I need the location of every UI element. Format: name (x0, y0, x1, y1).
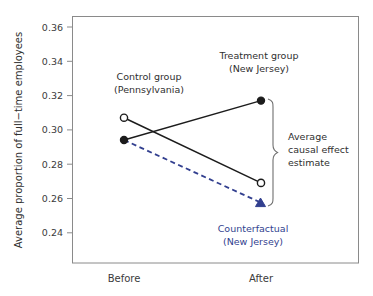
x-tick-label-before: Before (108, 273, 141, 284)
chart-figure: 0.36 0.34 0.32 0.30 0.28 0.26 0.24 Avera… (0, 0, 373, 296)
y-tick-label-030: 0.30 (42, 124, 63, 135)
x-tick-label-after: After (249, 273, 274, 284)
y-tick-label-036: 0.36 (42, 22, 63, 33)
annotation-effect-line1: Average (288, 131, 327, 142)
marker-counterfactual-after (256, 198, 266, 207)
annotation-counterfactual-line1: Counterfactual (218, 223, 289, 234)
annotation-treatment-line1: Treatment group (219, 50, 299, 61)
y-tick-label-026: 0.26 (42, 193, 63, 204)
y-tick-label-034: 0.34 (42, 56, 63, 67)
annotation-control-line1: Control group (117, 71, 182, 82)
series-line-treatment (124, 101, 261, 140)
y-tick-label-024: 0.24 (42, 227, 63, 238)
y-tick-label-028: 0.28 (42, 159, 63, 170)
annotation-effect-line3: estimate (288, 157, 330, 168)
effect-brace-icon (268, 99, 278, 206)
annotation-treatment-line2: (New Jersey) (229, 63, 289, 74)
annotation-effect-line2: causal effect (288, 144, 349, 155)
chart-svg: 0.36 0.34 0.32 0.30 0.28 0.26 0.24 Avera… (0, 0, 373, 296)
marker-control-before (120, 114, 127, 121)
series-line-control (124, 118, 261, 183)
annotation-counterfactual-line2: (New Jersey) (223, 236, 283, 247)
marker-control-after (257, 179, 264, 186)
marker-treatment-after (257, 97, 264, 104)
y-axis-title: Average proportion of full−time employee… (13, 32, 24, 248)
marker-treatment-before (120, 136, 127, 143)
y-tick-label-032: 0.32 (42, 90, 63, 101)
y-axis-ticks (67, 27, 73, 233)
annotation-control-line2: (Pennsylvania) (114, 84, 184, 95)
